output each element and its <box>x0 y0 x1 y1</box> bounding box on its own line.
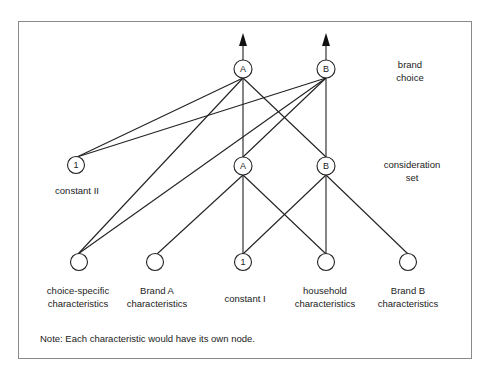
label-line: choice-specific <box>47 284 109 297</box>
edge-top-b-to-choice-specific <box>78 78 326 254</box>
label-line: Brand A <box>127 284 188 297</box>
footnote: Note: Each characteristic would have its… <box>40 333 255 344</box>
edge-mid-a-to-brand-a <box>157 175 243 254</box>
edge-mid-b-to-brand-b <box>326 175 408 254</box>
node-brand-a-characteristics <box>147 254 164 271</box>
label-line: set <box>384 171 441 184</box>
node-consideration-a: A <box>234 157 252 175</box>
brand-a-arrowhead-icon <box>239 33 247 46</box>
edge-top-b-to-constant-ii <box>77 78 326 157</box>
label-brand-a-characteristics: Brand A characteristics <box>127 284 188 310</box>
node-brand-choice-a: A <box>234 60 252 78</box>
brand-b-arrowhead-icon <box>322 33 330 46</box>
label-line: characteristics <box>47 297 109 310</box>
label-line: consideration <box>384 158 441 171</box>
edge-top-a-to-constant-ii <box>77 78 243 157</box>
node-label: B <box>323 161 329 171</box>
node-consideration-b: B <box>317 157 335 175</box>
level-label-consideration-set: consideration set <box>384 158 441 184</box>
label-constant-ii: constant II <box>55 184 99 197</box>
node-label: A <box>240 161 246 171</box>
node-label: 1 <box>240 257 245 267</box>
label-household-characteristics: household characteristics <box>295 284 356 310</box>
label-line: Brand B <box>378 284 439 297</box>
label-line: choice <box>396 71 423 84</box>
label-line: household <box>295 284 356 297</box>
edge-top-a-to-choice-specific <box>78 78 243 254</box>
node-constant-ii: 1 <box>68 157 85 174</box>
output-arrows <box>239 33 330 60</box>
node-brand-b-characteristics <box>400 254 417 271</box>
level-label-brand-choice: brand choice <box>396 58 423 84</box>
label-line: characteristics <box>127 297 188 310</box>
label-line: brand <box>396 58 423 71</box>
node-label: 1 <box>73 160 78 170</box>
label-brand-b-characteristics: Brand B characteristics <box>378 284 439 310</box>
node-choice-specific <box>71 254 88 271</box>
node-label: A <box>240 64 246 74</box>
node-label: B <box>323 64 329 74</box>
node-brand-choice-b: B <box>317 60 335 78</box>
label-choice-specific: choice-specific characteristics <box>47 284 109 310</box>
label-line: characteristics <box>378 297 439 310</box>
label-line: characteristics <box>295 297 356 310</box>
node-constant-i: 1 <box>235 254 252 271</box>
node-household-characteristics <box>318 254 335 271</box>
label-constant-i: constant I <box>224 292 265 305</box>
